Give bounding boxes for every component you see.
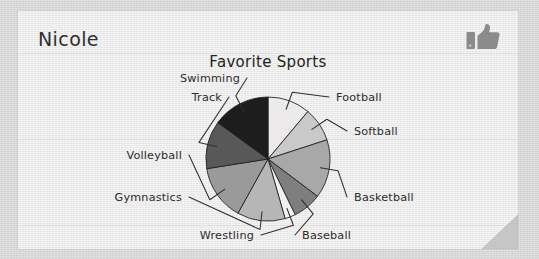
- slice-label-softball: Softball: [354, 125, 398, 138]
- pie-slices: [206, 97, 330, 221]
- pie-chart: Favorite Sports FootballSoftballBasketba…: [18, 49, 518, 245]
- chart-title: Favorite Sports: [209, 53, 326, 71]
- thumbs-up-icon[interactable]: [466, 23, 500, 53]
- worksheet-card: Nicole Favorite Sports FootballSoftballB…: [18, 11, 518, 249]
- student-name: Nicole: [38, 28, 99, 50]
- slice-label-baseball: Baseball: [302, 229, 351, 242]
- worksheet-canvas: Nicole Favorite Sports FootballSoftballB…: [0, 0, 539, 259]
- slice-label-gymnastics: Gymnastics: [115, 191, 182, 204]
- slice-label-football: Football: [336, 91, 382, 104]
- folded-corner-icon: [482, 215, 518, 249]
- slice-label-wrestling: Wrestling: [200, 229, 254, 242]
- slice-label-track: Track: [191, 91, 223, 104]
- slice-label-volleyball: Volleyball: [126, 149, 182, 162]
- slice-label-swimming: Swimming: [180, 72, 240, 85]
- slice-label-basketball: Basketball: [354, 191, 414, 204]
